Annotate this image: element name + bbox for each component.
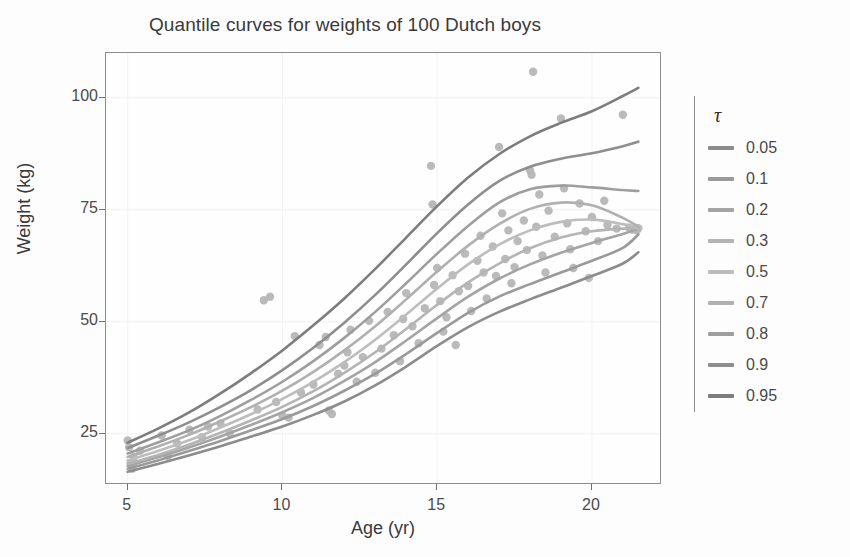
scatter-point bbox=[619, 111, 627, 119]
legend-label: 0.05 bbox=[746, 139, 777, 157]
plot-svg bbox=[106, 53, 660, 483]
x-tick-mark bbox=[281, 484, 282, 490]
legend-key-line-icon bbox=[708, 301, 734, 305]
legend-label: 0.2 bbox=[746, 201, 768, 219]
legend-label: 0.3 bbox=[746, 232, 768, 250]
legend-key-line-icon bbox=[708, 177, 734, 181]
scatter-point bbox=[544, 206, 552, 214]
legend-key-line-icon bbox=[708, 332, 734, 336]
quantile-curves bbox=[128, 88, 639, 472]
x-tick-label: 20 bbox=[571, 496, 611, 514]
y-tick-mark bbox=[99, 321, 105, 322]
plot-panel bbox=[105, 52, 661, 484]
scatter-point bbox=[535, 190, 543, 198]
legend-key-line-icon bbox=[708, 363, 734, 367]
legend-divider bbox=[694, 96, 695, 412]
scatter-point bbox=[520, 216, 528, 224]
y-tick-mark bbox=[99, 97, 105, 98]
y-tick-label: 75 bbox=[52, 199, 98, 217]
legend-item[interactable]: 0.7 bbox=[706, 287, 836, 318]
legend-label: 0.8 bbox=[746, 325, 768, 343]
scatter-point bbox=[527, 171, 535, 179]
legend-key-line-icon bbox=[708, 208, 734, 212]
scatter-point bbox=[266, 292, 274, 300]
y-tick-label: 100 bbox=[52, 87, 98, 105]
scatter-point bbox=[529, 68, 537, 76]
scatter-point bbox=[452, 341, 460, 349]
legend-item[interactable]: 0.05 bbox=[706, 132, 836, 163]
scatter-point bbox=[600, 197, 608, 205]
x-tick-label: 5 bbox=[107, 496, 147, 514]
quantile-curve-0_7 bbox=[128, 202, 639, 457]
scatter-point bbox=[541, 268, 549, 276]
legend-item[interactable]: 0.8 bbox=[706, 318, 836, 349]
x-axis-title: Age (yr) bbox=[105, 518, 661, 539]
x-tick-mark bbox=[127, 484, 128, 490]
legend-label: 0.7 bbox=[746, 294, 768, 312]
scatter-point bbox=[328, 410, 336, 418]
x-tick-label: 15 bbox=[416, 496, 456, 514]
chart-figure: Quantile curves for weights of 100 Dutch… bbox=[0, 0, 850, 557]
legend-item[interactable]: 0.1 bbox=[706, 163, 836, 194]
legend-label: 0.5 bbox=[746, 263, 768, 281]
legend-key-line-icon bbox=[708, 146, 734, 150]
chart-title: Quantile curves for weights of 100 Dutch… bbox=[0, 14, 690, 36]
scatter-point bbox=[495, 143, 503, 151]
legend-item[interactable]: 0.2 bbox=[706, 194, 836, 225]
quantile-curve-0_95 bbox=[128, 88, 639, 443]
scatter-point bbox=[507, 279, 515, 287]
scatter-point bbox=[427, 162, 435, 170]
y-axis-ticks: 255075100 bbox=[46, 52, 98, 484]
y-tick-label: 50 bbox=[52, 311, 98, 329]
legend-key-line-icon bbox=[708, 270, 734, 274]
legend-items: 0.050.10.20.30.50.70.80.90.95 bbox=[706, 132, 836, 411]
legend-item[interactable]: 0.3 bbox=[706, 225, 836, 256]
x-tick-mark bbox=[436, 484, 437, 490]
x-tick-mark bbox=[591, 484, 592, 490]
legend: τ 0.050.10.20.30.50.70.80.90.95 bbox=[706, 104, 836, 411]
y-tick-label: 25 bbox=[52, 423, 98, 441]
legend-label: 0.9 bbox=[746, 356, 768, 374]
y-axis-title: Weight (kg) bbox=[14, 119, 35, 299]
scatter-point bbox=[498, 209, 506, 217]
legend-item[interactable]: 0.9 bbox=[706, 349, 836, 380]
y-tick-mark bbox=[99, 209, 105, 210]
legend-key-line-icon bbox=[708, 239, 734, 243]
legend-label: 0.95 bbox=[746, 387, 777, 405]
legend-title: τ bbox=[706, 104, 836, 132]
y-tick-mark bbox=[99, 433, 105, 434]
legend-item[interactable]: 0.95 bbox=[706, 380, 836, 411]
legend-item[interactable]: 0.5 bbox=[706, 256, 836, 287]
scatter-point bbox=[504, 226, 512, 234]
legend-key-line-icon bbox=[708, 394, 734, 398]
x-tick-label: 10 bbox=[261, 496, 301, 514]
legend-label: 0.1 bbox=[746, 170, 768, 188]
